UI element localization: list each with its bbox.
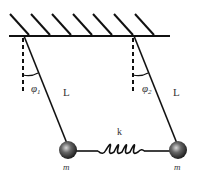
length-label-right: L xyxy=(173,86,180,98)
spring-constant-label: k xyxy=(117,126,122,137)
rod-right xyxy=(134,36,178,146)
mass-right xyxy=(169,141,187,159)
ceiling-hatching xyxy=(10,14,154,35)
mass-label-left: m xyxy=(63,162,70,172)
coupled-pendulum-diagram: φ1 φ2 L L k m m xyxy=(0,0,197,174)
angle-label-left: φ1 xyxy=(31,82,41,96)
length-label-left: L xyxy=(63,86,70,98)
mass-label-right: m xyxy=(174,162,181,172)
angle-arc-left xyxy=(23,73,38,76)
mass-left xyxy=(59,141,77,159)
angle-arc-right xyxy=(133,73,148,76)
angle-label-right: φ2 xyxy=(142,82,152,96)
spring xyxy=(98,144,144,153)
